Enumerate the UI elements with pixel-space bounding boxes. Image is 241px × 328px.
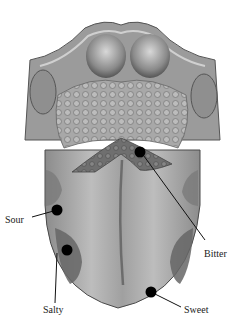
tongue-illustration <box>0 0 241 328</box>
bitter-dot-icon <box>135 147 146 158</box>
label-bitter: Bitter <box>204 249 227 259</box>
sour-dot-icon <box>52 205 63 216</box>
epiglottis-left-icon <box>86 34 126 78</box>
label-sweet: Sweet <box>184 305 208 315</box>
tonsil-left-icon <box>30 70 56 114</box>
tonsil-right-icon <box>191 74 217 118</box>
label-salty: Salty <box>43 305 64 315</box>
papillae-region <box>56 80 188 148</box>
tongue-diagram: Sour Salty Bitter Sweet <box>0 0 241 328</box>
sweet-dot-icon <box>146 287 157 298</box>
salty-leader-line <box>55 253 57 303</box>
salty-dot-icon <box>62 245 73 256</box>
epiglottis-right-icon <box>130 34 170 78</box>
label-sour: Sour <box>5 215 24 225</box>
